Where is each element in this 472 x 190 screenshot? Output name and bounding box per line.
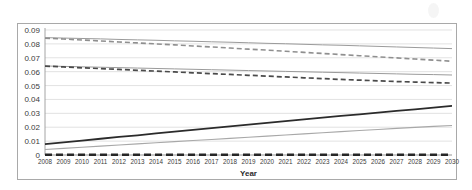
x-axis-tick-label: 2030 — [445, 158, 460, 165]
x-axis-tick-label: 2020 — [260, 158, 275, 165]
x-axis-tick-label: 2014 — [149, 158, 164, 165]
chart-canvas: 0.090.080.070.060.050.040.030.020.010200… — [0, 0, 472, 190]
x-axis-tick-label: 2021 — [278, 158, 293, 165]
x-axis-tick-label: 2009 — [56, 158, 71, 165]
y-axis-tick-label: 0.09 — [24, 26, 40, 35]
y-axis-tick-label: 0.08 — [24, 40, 40, 49]
x-axis-tick-label: 2015 — [167, 158, 182, 165]
x-axis-tick-label: 2010 — [75, 158, 90, 165]
line-chart-svg: 0.090.080.070.060.050.040.030.020.010200… — [0, 0, 472, 190]
x-axis-tick-label: 2008 — [38, 158, 53, 165]
x-axis-tick-label: 2011 — [94, 158, 108, 165]
y-axis-tick-label: 0.03 — [24, 109, 40, 118]
y-axis-tick-label: 0.04 — [24, 95, 40, 104]
y-axis-tick-label: 0.05 — [24, 82, 40, 91]
x-axis-tick-label: 2019 — [241, 158, 256, 165]
x-axis-title: Year — [240, 169, 257, 178]
x-axis-tick-label: 2026 — [371, 158, 386, 165]
x-axis-tick-label: 2016 — [186, 158, 201, 165]
x-axis-tick-label: 2029 — [426, 158, 441, 165]
x-axis-tick-label: 2025 — [352, 158, 367, 165]
x-axis-tick-label: 2027 — [389, 158, 404, 165]
x-axis-tick-label: 2023 — [315, 158, 330, 165]
series-middle-dashed-black — [45, 66, 452, 83]
x-axis-tick-label: 2018 — [223, 158, 238, 165]
y-axis-tick-label: 0.07 — [24, 54, 40, 63]
x-axis-tick-label: 2022 — [297, 158, 312, 165]
series-rising-solid-black — [45, 106, 452, 144]
x-axis-tick-label: 2013 — [130, 158, 145, 165]
x-axis-tick-label: 2028 — [408, 158, 423, 165]
chart-figure: 0.090.080.070.060.050.040.030.020.010200… — [0, 0, 472, 190]
series-upper-solid-gray — [45, 38, 452, 49]
x-axis-tick-label: 2017 — [204, 158, 219, 165]
y-axis-tick-label: 0.02 — [24, 123, 40, 132]
y-axis-tick-label: 0.01 — [24, 137, 40, 146]
y-axis-tick-label: 0.06 — [24, 68, 40, 77]
x-axis-tick-label: 2024 — [334, 158, 349, 165]
series-middle-solid-gray — [45, 66, 452, 75]
x-axis-tick-label: 2012 — [112, 158, 127, 165]
